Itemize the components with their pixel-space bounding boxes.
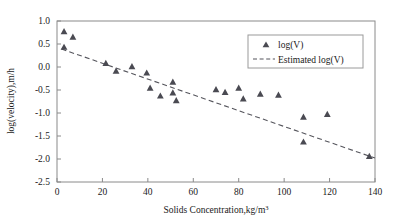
data-point-marker xyxy=(300,114,307,120)
x-axis-ticks xyxy=(57,178,375,182)
data-point-marker xyxy=(257,91,264,97)
data-point-marker xyxy=(61,44,68,50)
y-axis-title: log(velocity),m/h xyxy=(6,68,17,134)
scatter-plot: 020406080100120140 1.00.50.0-0.5-1.0-1.5… xyxy=(0,0,408,223)
data-point-marker xyxy=(169,79,176,85)
x-tick-label: 120 xyxy=(322,187,337,197)
x-axis-title-superscript: 3 xyxy=(265,204,268,211)
x-tick-label: 140 xyxy=(368,187,383,197)
y-tick-label: 0.0 xyxy=(38,62,50,72)
data-point-marker xyxy=(61,28,68,34)
data-point-marker xyxy=(275,92,282,98)
x-tick-label: 100 xyxy=(277,187,292,197)
y-tick-label: -1.5 xyxy=(35,131,50,141)
y-tick-label: 0.5 xyxy=(38,39,50,49)
y-tick-label: -2.5 xyxy=(35,177,50,187)
data-point-marker xyxy=(173,97,180,103)
data-point-marker xyxy=(70,34,77,40)
data-point-marker xyxy=(235,85,242,91)
y-axis-tick-labels: 1.00.50.0-0.5-1.0-1.5-2.0-2.5 xyxy=(35,16,50,187)
data-point-marker xyxy=(213,86,220,92)
y-tick-label: 1.0 xyxy=(38,16,50,26)
data-point-marker xyxy=(222,89,229,95)
x-axis-title: Solids Concentration,kg/m3 xyxy=(163,204,268,215)
y-tick-label: -2.0 xyxy=(35,154,50,164)
x-axis-tick-labels: 020406080100120140 xyxy=(55,187,383,197)
data-point-marker xyxy=(147,85,154,91)
x-tick-label: 80 xyxy=(234,187,244,197)
data-point-marker xyxy=(240,95,247,101)
y-axis-ticks xyxy=(57,21,61,182)
x-tick-label: 40 xyxy=(143,187,153,197)
y-tick-label: -1.0 xyxy=(35,108,50,118)
legend: log(V) Estimated log(V) xyxy=(248,35,363,68)
data-point-marker xyxy=(324,111,331,117)
x-tick-label: 20 xyxy=(98,187,108,197)
legend-label-log-v: log(V) xyxy=(278,40,303,51)
legend-label-estimated-log-v: Estimated log(V) xyxy=(278,55,344,66)
data-point-marker xyxy=(143,69,150,75)
data-point-marker xyxy=(102,60,109,66)
data-point-marker xyxy=(129,63,136,69)
x-tick-label: 60 xyxy=(189,187,199,197)
data-point-marker xyxy=(157,92,164,98)
data-point-marker xyxy=(169,89,176,95)
data-point-marker xyxy=(300,138,307,144)
chart-figure: 020406080100120140 1.00.50.0-0.5-1.0-1.5… xyxy=(0,0,408,223)
y-tick-label: -0.5 xyxy=(35,85,50,95)
x-tick-label: 0 xyxy=(55,187,60,197)
